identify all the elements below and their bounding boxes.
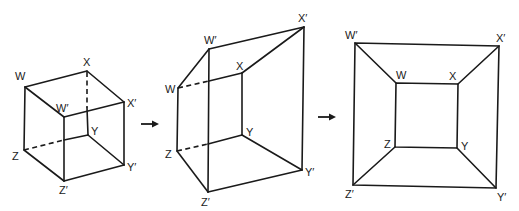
edge-wp-xp	[64, 102, 124, 117]
edge-y-yp	[88, 135, 124, 165]
label-w: W	[165, 83, 176, 95]
edge-w-x-visible	[209, 73, 242, 81]
label-z: Z	[165, 148, 172, 160]
inner-square	[395, 83, 458, 148]
edge-w-z	[177, 88, 178, 151]
edge-z-y-visible	[208, 135, 242, 144]
figure-square-in-square: W′ X′ W X Z Y Z′ Y′	[345, 29, 506, 203]
label-wp: W′	[204, 34, 216, 46]
label-x: X	[449, 70, 457, 82]
label-x: X	[236, 60, 244, 72]
label-yp: Y′	[305, 166, 314, 178]
label-zp: Z′	[345, 188, 354, 200]
label-zp: Z′	[201, 196, 210, 208]
label-y: Y	[91, 125, 99, 137]
label-zp: Z′	[59, 184, 68, 196]
edge-xp-x	[458, 46, 499, 84]
edge-z-y-visible	[64, 135, 88, 140]
edge-zp-z	[353, 147, 395, 185]
edge-w-x	[25, 71, 87, 87]
edge-z-zp	[177, 151, 208, 192]
label-xp: X′	[298, 12, 307, 24]
edge-w-z	[24, 87, 25, 150]
edge-y-yp	[242, 135, 302, 170]
arrow-right-icon	[318, 114, 336, 121]
label-yp: Y′	[497, 191, 506, 203]
edge-xp-yp	[302, 27, 304, 170]
edge-yp-zp	[64, 165, 124, 181]
label-y: Y	[461, 140, 469, 152]
label-wp: W′	[345, 29, 357, 41]
label-x: X	[83, 56, 91, 68]
label-xp: X′	[496, 32, 505, 44]
arrow-right-icon	[141, 121, 159, 128]
edge-z-zp	[24, 150, 64, 181]
edge-yp-y	[457, 148, 496, 188]
edge-wp-w	[355, 43, 396, 83]
edge-x-xp	[87, 71, 124, 102]
edge-z-y-hidden	[177, 144, 208, 151]
edge-zp-wp	[208, 49, 209, 192]
label-y: Y	[246, 126, 254, 138]
figure-frustum: W′ X′ X W Y Z Y′ Z′	[165, 12, 314, 208]
label-z: Z	[12, 150, 19, 162]
label-wp: W′	[56, 102, 68, 114]
label-xp: X′	[127, 97, 136, 109]
label-w: W	[15, 70, 26, 82]
edge-z-y-hidden	[24, 140, 64, 150]
edge-yp-zp	[208, 170, 302, 192]
figure-cube: W X W′ X′ Y Z Y′ Z′	[12, 56, 136, 196]
edge-x-y-visible	[87, 108, 88, 135]
label-yp: Y′	[127, 161, 136, 173]
cube-transformation-diagram: W X W′ X′ Y Z Y′ Z′ W′ X′ X W	[0, 0, 519, 211]
label-w: W	[396, 69, 407, 81]
label-z: Z	[384, 138, 391, 150]
